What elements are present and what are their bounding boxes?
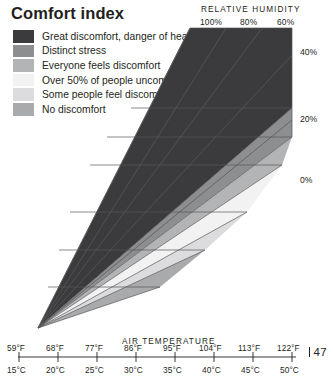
temp-tick-f-77: 77°F [85,343,103,353]
page-number: 47 [309,346,327,358]
temp-tick-f-59: 59°F [7,343,25,353]
humidity-tick-80: 80% [240,17,257,27]
temp-tick-c-40: 40°C [202,365,221,375]
relative-humidity-axis-label: RELATIVE HUMIDITY [201,5,301,14]
comfort-fan-plot [0,0,333,387]
temp-tick-c-45: 45°C [241,365,260,375]
page-number-rule [309,347,310,357]
temp-tick-f-122: 122°F [277,343,300,353]
humidity-tick-60: 60% [277,17,294,27]
temp-tick-c-35: 35°C [163,365,182,375]
temp-tick-c-25: 25°C [85,365,104,375]
temp-tick-f-95: 95°F [163,343,181,353]
temp-tick-f-104: 104°F [199,343,222,353]
temp-tick-c-15: 15°C [7,365,26,375]
temp-tick-c-50: 50°C [280,365,299,375]
temp-tick-f-68: 68°F [46,343,64,353]
temp-tick-f-86: 86°F [124,343,142,353]
temp-tick-c-30: 30°C [124,365,143,375]
temp-tick-f-113: 113°F [238,343,260,353]
temperature-axis-line [18,352,296,362]
humidity-tick-100: 100% [200,17,222,27]
humidity-tick-40: 40% [300,47,317,57]
comfort-index-chart: Comfort index Great discomfort, danger o… [0,0,333,387]
comfort-bands [38,28,292,328]
page-number-value: 47 [313,346,327,358]
humidity-tick-20: 20% [300,114,317,124]
temp-tick-c-20: 20°C [46,365,65,375]
humidity-tick-0: 0% [300,175,312,185]
